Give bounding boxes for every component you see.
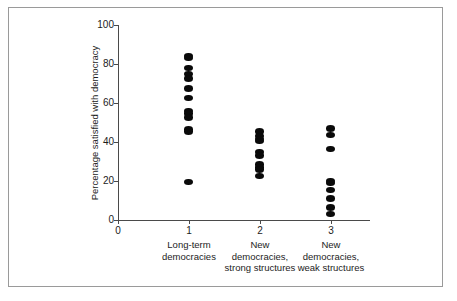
data-point [184, 179, 193, 186]
data-point [184, 114, 193, 121]
data-point [326, 125, 335, 132]
x-tick-mark [260, 220, 261, 224]
data-point [326, 211, 335, 218]
figure-container: 020406080100 01Long-termdemocracies2Newd… [0, 0, 457, 301]
x-axis-line [118, 220, 370, 221]
x-tick-mark [331, 220, 332, 224]
data-point [326, 132, 335, 139]
y-tick-label: 40 [103, 136, 114, 147]
x-category-label-line: democracies, [283, 251, 379, 263]
data-point [255, 152, 264, 159]
data-point [326, 146, 335, 153]
y-tick-label: 60 [103, 97, 114, 108]
y-tick-mark [114, 103, 118, 104]
data-point [255, 173, 264, 180]
x-tick-mark [118, 220, 119, 224]
data-point [255, 138, 264, 145]
y-tick-mark [114, 142, 118, 143]
data-point [326, 195, 335, 202]
x-category-label-3: Newdemocracies,weak structures [283, 239, 379, 274]
data-point [184, 95, 193, 102]
x-tick-label: 3 [311, 225, 351, 237]
y-tick-mark [114, 64, 118, 65]
y-axis-title: Percentage satisfied with democracy [88, 25, 102, 221]
y-axis-line [118, 25, 119, 221]
x-tick-label: 1 [169, 225, 209, 237]
x-tick-mark [189, 220, 190, 224]
data-point [255, 166, 264, 173]
y-tick-label: 0 [108, 214, 114, 225]
y-tick-label: 80 [103, 58, 114, 69]
data-point [326, 187, 335, 194]
y-tick-mark [114, 25, 118, 26]
data-point [326, 204, 335, 211]
data-point [326, 180, 335, 187]
data-point [184, 85, 193, 92]
data-point [184, 128, 193, 135]
x-category-label-line: weak structures [283, 262, 379, 274]
y-tick-label: 20 [103, 175, 114, 186]
x-category-label-line: New [283, 239, 379, 251]
x-tick-label: 2 [240, 225, 280, 237]
data-point [184, 55, 193, 62]
scatter-plot: 020406080100 01Long-termdemocracies2Newd… [0, 0, 457, 301]
x-tick-label: 0 [98, 225, 138, 237]
y-tick-mark [114, 181, 118, 182]
data-point [184, 75, 193, 82]
